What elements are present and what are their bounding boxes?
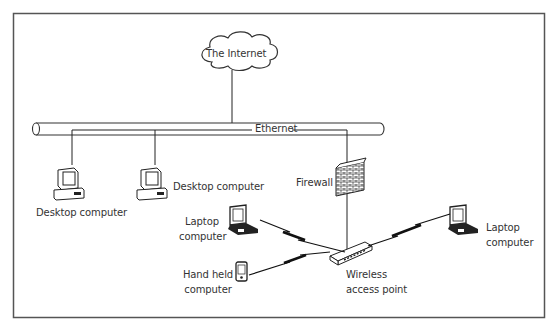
firewall-label: Firewall (296, 175, 333, 190)
handheld-label: Hand held computer (182, 267, 234, 297)
wireless-link-handheld (249, 252, 330, 275)
wireless-access-point-icon (330, 242, 372, 265)
network-diagram: The Internet Ethernet Desktop computer D… (0, 0, 557, 334)
wap-label-line2: access point (346, 282, 407, 297)
laptop2-label: Laptop computer (486, 220, 533, 250)
laptop-computer-icon (228, 205, 258, 235)
diagram-frame (14, 14, 545, 318)
wap-label-line1: Wireless (346, 267, 407, 282)
wireless-link-laptop1 (260, 220, 345, 252)
laptop1-label: Laptop computer (179, 214, 225, 244)
laptop2-label-line2: computer (486, 235, 533, 250)
laptop1-label-line2: computer (179, 229, 225, 244)
handheld-computer-icon (236, 262, 247, 281)
diagram-canvas (0, 0, 557, 334)
desktop-computer-icon (137, 168, 167, 200)
internet-label: The Internet (206, 46, 266, 61)
ethernet-label: Ethernet (255, 121, 297, 136)
laptop1-label-line1: Laptop (179, 214, 225, 229)
wireless-link-laptop2 (368, 214, 450, 246)
handheld-label-line2: computer (182, 282, 234, 297)
desktop2-label: Desktop computer (173, 179, 264, 194)
ethernet-cable (33, 123, 385, 135)
desktop-computer-icon (54, 168, 84, 200)
laptop-computer-icon (448, 205, 478, 235)
laptop2-label-line1: Laptop (486, 220, 533, 235)
handheld-label-line1: Hand held (182, 267, 234, 282)
desktop1-label: Desktop computer (36, 205, 127, 220)
wap-label: Wireless access point (346, 267, 407, 297)
firewall-icon (336, 158, 366, 196)
